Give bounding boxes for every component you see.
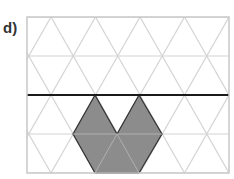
triangular-grid-diagram bbox=[0, 0, 234, 179]
